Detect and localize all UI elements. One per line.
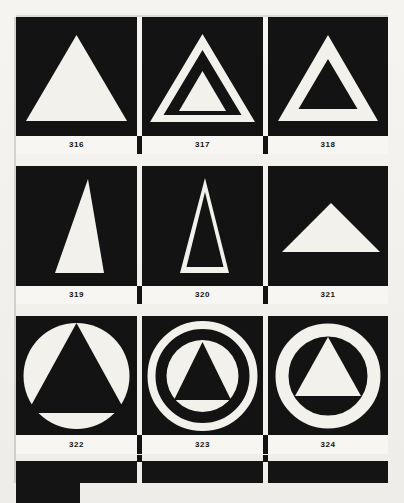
tall-triangle-outline-icon	[142, 166, 263, 286]
figure-cell-316	[16, 17, 137, 136]
figure-caption-319: 319	[16, 286, 137, 304]
caption-text: 318	[320, 141, 335, 149]
cropped-figure-cell-left-tab	[16, 461, 80, 503]
wide-filled-triangle-icon	[268, 166, 388, 286]
caption-text: 323	[195, 441, 210, 449]
caption-text: 322	[69, 441, 84, 449]
footer-gap-block-c2	[263, 455, 268, 462]
figure-cell-317	[142, 17, 263, 136]
cropped-figure-cell-middle	[142, 461, 263, 483]
figure-cell-322	[16, 316, 137, 435]
figure-caption-320: 320	[142, 286, 263, 304]
footer-gap-block-c1	[137, 455, 142, 462]
figure-cell-318	[268, 17, 388, 136]
figure-caption-317: 317	[142, 136, 263, 154]
figure-caption-322: 322	[16, 435, 137, 454]
figure-caption-321: 321	[268, 286, 388, 304]
caption-text: 320	[195, 291, 210, 299]
figure-cell-324	[268, 316, 388, 435]
figure-caption-316: 316	[16, 136, 137, 154]
filled-triangle-icon	[16, 17, 137, 136]
caption-text: 324	[320, 441, 335, 449]
figure-cell-319	[16, 166, 137, 286]
figure-caption-324: 324	[268, 435, 388, 454]
tall-filled-triangle-icon	[16, 166, 137, 286]
thick-triangle-outline-icon	[268, 17, 388, 136]
figure-caption-318: 318	[268, 136, 388, 154]
cropped-figure-cell-right	[268, 461, 388, 483]
ring-with-white-triangle-icon	[268, 316, 388, 435]
figure-caption-323: 323	[142, 435, 263, 454]
symbol-plate: 316 317 318 319 320 321	[0, 0, 404, 503]
nested-triangle-outline-icon	[142, 17, 263, 136]
figure-cell-323	[142, 316, 263, 435]
caption-text: 319	[69, 291, 84, 299]
figure-cell-320	[142, 166, 263, 286]
double-ring-with-black-triangle-icon	[142, 316, 263, 435]
scan-edge-artifact-top	[16, 15, 388, 17]
caption-text: 316	[69, 141, 84, 149]
circle-with-black-triangle-icon	[16, 316, 137, 435]
caption-text: 317	[195, 141, 210, 149]
scan-edge-artifact-left	[14, 17, 16, 483]
caption-text: 321	[320, 291, 335, 299]
figure-cell-321	[268, 166, 388, 286]
